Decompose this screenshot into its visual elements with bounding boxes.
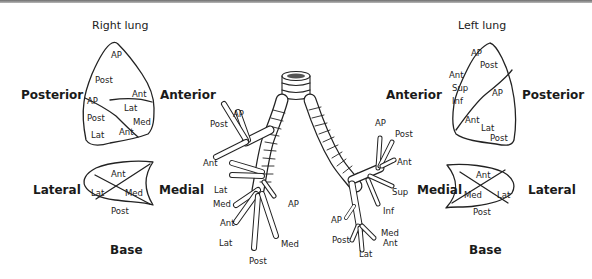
left-lung-anterior-label: Anterior [386, 89, 442, 101]
right-lung-title: Right lung [92, 20, 148, 31]
right-segment-lower-ap: AP [87, 97, 98, 106]
bronchus-right-lower-ap: AP [288, 200, 299, 209]
right-lung-anterior-label: Anterior [160, 89, 216, 101]
left-segment-post: Post [480, 61, 498, 70]
right-segment-middle-lat: Lat [124, 104, 137, 113]
left-base-ant: Ant [476, 171, 491, 180]
left-segment-lower-ant: Ant [465, 116, 480, 125]
right-segment-middle-med: Med [133, 118, 151, 127]
right-lung-posterior-label: Posterior [21, 89, 83, 101]
right-segment-ap: AP [111, 51, 122, 60]
bronchus-left-ant: Ant [397, 158, 412, 167]
right-segment-post: Post [95, 76, 113, 85]
left-base-post: Post [473, 208, 491, 217]
bronchus-left-inf: Inf [383, 207, 394, 216]
left-base-medial-label: Medial [417, 184, 462, 196]
bronchus-right-med: Med [213, 200, 231, 209]
right-base-post: Post [111, 207, 129, 216]
bronchus-right-lower-ant: Ant [220, 219, 235, 228]
bronchus-right-ant: Ant [203, 159, 218, 168]
left-segment-inf: Inf [452, 97, 463, 106]
bronchus-right-lower-med: Med [281, 240, 299, 249]
bronchus-right-lat: Lat [214, 186, 227, 195]
left-segment-ant: Ant [449, 71, 464, 80]
bronchus-right-lower-lat: Lat [219, 239, 232, 248]
bronchus-right-post: Post [210, 120, 228, 129]
right-base-med: Med [125, 189, 143, 198]
left-segment-lower-lat: Lat [481, 124, 494, 133]
bronchus-left-sup: Sup [392, 188, 408, 197]
bronchial-tree [216, 72, 394, 251]
bronchus-left-lower-ap: AP [331, 216, 342, 225]
left-base-label: Base [469, 244, 502, 256]
right-lung-base-outline [84, 161, 153, 205]
left-segment-lower-ap: AP [492, 89, 503, 98]
bronchus-left-lower-ant: Ant [383, 239, 398, 248]
left-segment-sup: Sup [452, 84, 468, 93]
left-lung-title: Left lung [458, 20, 506, 31]
right-base-ant: Ant [111, 170, 126, 179]
right-segment-lower-ant: Ant [119, 128, 134, 137]
right-base-lat: Lat [91, 189, 104, 198]
bronchus-right-ap: AP [233, 110, 244, 119]
bronchus-left-lower-lat: Lat [359, 250, 372, 259]
right-base-label: Base [110, 244, 143, 256]
right-segment-ant: Ant [132, 90, 147, 99]
left-segment-ap: AP [471, 49, 482, 58]
left-base-lat: Lat [497, 191, 510, 200]
bronchus-left-ap: AP [375, 119, 386, 128]
left-lung-posterior-label: Posterior [522, 89, 584, 101]
right-base-lateral-label: Lateral [33, 184, 81, 196]
right-base-medial-label: Medial [159, 184, 204, 196]
bronchus-left-lower-post: Post [332, 236, 350, 245]
left-segment-lower-post: Post [490, 134, 508, 143]
bronchus-left-lower-med: Med [381, 229, 399, 238]
left-base-med: Med [464, 191, 482, 200]
bronchus-right-lower-post: Post [249, 257, 267, 266]
bronchus-left-post: Post [395, 130, 413, 139]
right-segment-lower-post: Post [87, 114, 105, 123]
left-base-lateral-label: Lateral [528, 184, 576, 196]
right-segment-lower-lat: Lat [91, 131, 104, 140]
